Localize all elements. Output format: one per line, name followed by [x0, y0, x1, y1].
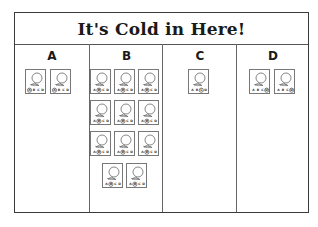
svg-text:C: C — [138, 182, 141, 186]
balloon-drawing-icon: ABCD — [115, 132, 136, 157]
svg-text:C: C — [150, 88, 153, 92]
svg-text:C: C — [126, 88, 129, 92]
vote-card: ABCD — [114, 69, 135, 94]
svg-text:C: C — [126, 150, 129, 154]
balloon-drawing-icon: ABCD — [51, 70, 72, 95]
svg-text:D: D — [154, 150, 157, 154]
balloon-drawing-icon: ABCD — [275, 70, 296, 95]
svg-text:C: C — [62, 88, 65, 92]
svg-text:D: D — [130, 88, 133, 92]
vote-card: ABCD — [188, 69, 209, 94]
svg-text:D: D — [41, 88, 44, 92]
title-row: It's Cold in Here! — [15, 13, 308, 45]
column-c-label: C — [163, 49, 237, 63]
balloon-drawing-icon: ABCD — [91, 132, 112, 157]
svg-text:D: D — [154, 88, 157, 92]
balloon-drawing-icon: ABCD — [127, 164, 148, 189]
svg-text:A: A — [252, 88, 255, 92]
svg-text:C: C — [114, 182, 117, 186]
svg-text:D: D — [204, 88, 207, 92]
pictograph-chart-frame: It's Cold in Here! A B C D — [14, 12, 309, 213]
vote-card: ABCD — [138, 100, 159, 125]
column-d: D — [236, 44, 309, 212]
balloon-drawing-icon: ABCD — [91, 101, 112, 126]
vote-card: ABCD — [102, 163, 123, 188]
vote-card: ABCD — [50, 69, 71, 94]
svg-text:D: D — [106, 119, 109, 123]
balloon-drawing-icon: ABCD — [250, 70, 271, 95]
svg-text:D: D — [66, 88, 69, 92]
svg-text:A: A — [93, 119, 96, 123]
svg-text:D: D — [106, 150, 109, 154]
svg-text:B: B — [58, 88, 61, 92]
vote-card: ABCD — [138, 69, 159, 94]
column-a-label: A — [15, 49, 89, 63]
vote-card: ABCD — [90, 69, 111, 94]
balloon-drawing-icon: ABCD — [115, 70, 136, 95]
svg-text:B: B — [257, 88, 260, 92]
svg-text:A: A — [277, 88, 280, 92]
balloon-drawing-icon: ABCD — [189, 70, 210, 95]
svg-text:D: D — [142, 182, 145, 186]
balloon-drawing-icon: ABCD — [139, 70, 160, 95]
svg-text:A: A — [129, 182, 132, 186]
balloon-drawing-icon: ABCD — [91, 70, 112, 95]
vote-card: ABCD — [90, 131, 111, 156]
svg-text:B: B — [282, 88, 285, 92]
svg-text:D: D — [106, 88, 109, 92]
vote-card: ABCD — [138, 131, 159, 156]
svg-text:A: A — [141, 119, 144, 123]
svg-text:A: A — [117, 88, 120, 92]
balloon-drawing-icon: ABCD — [139, 101, 160, 126]
balloon-drawing-icon: ABCD — [103, 164, 124, 189]
vote-card: ABCD — [90, 100, 111, 125]
svg-text:B: B — [196, 88, 199, 92]
svg-text:A: A — [191, 88, 194, 92]
svg-text:A: A — [117, 119, 120, 123]
svg-text:C: C — [261, 88, 264, 92]
svg-text:C: C — [286, 88, 289, 92]
vote-card: ABCD — [25, 69, 46, 94]
svg-text:C: C — [102, 119, 105, 123]
svg-text:A: A — [93, 88, 96, 92]
svg-text:A: A — [105, 182, 108, 186]
chart-title: It's Cold in Here! — [77, 19, 245, 39]
svg-text:D: D — [130, 150, 133, 154]
svg-text:D: D — [118, 182, 121, 186]
svg-text:C: C — [126, 119, 129, 123]
svg-text:D: D — [154, 119, 157, 123]
svg-text:C: C — [102, 88, 105, 92]
svg-text:C: C — [150, 150, 153, 154]
svg-text:A: A — [141, 150, 144, 154]
svg-text:D: D — [130, 119, 133, 123]
svg-text:C: C — [150, 119, 153, 123]
balloon-drawing-icon: ABCD — [26, 70, 47, 95]
svg-text:C: C — [102, 150, 105, 154]
svg-text:B: B — [33, 88, 36, 92]
svg-text:C: C — [37, 88, 40, 92]
svg-text:A: A — [117, 150, 120, 154]
svg-text:A: A — [93, 150, 96, 154]
vote-card: ABCD — [114, 100, 135, 125]
vote-card: ABCD — [126, 163, 147, 188]
column-d-label: D — [237, 49, 309, 63]
balloon-drawing-icon: ABCD — [115, 101, 136, 126]
vote-card: ABCD — [274, 69, 295, 94]
column-b-label: B — [90, 49, 163, 63]
vote-card: ABCD — [249, 69, 270, 94]
svg-text:A: A — [141, 88, 144, 92]
balloon-drawing-icon: ABCD — [139, 132, 160, 157]
vote-card: ABCD — [114, 131, 135, 156]
